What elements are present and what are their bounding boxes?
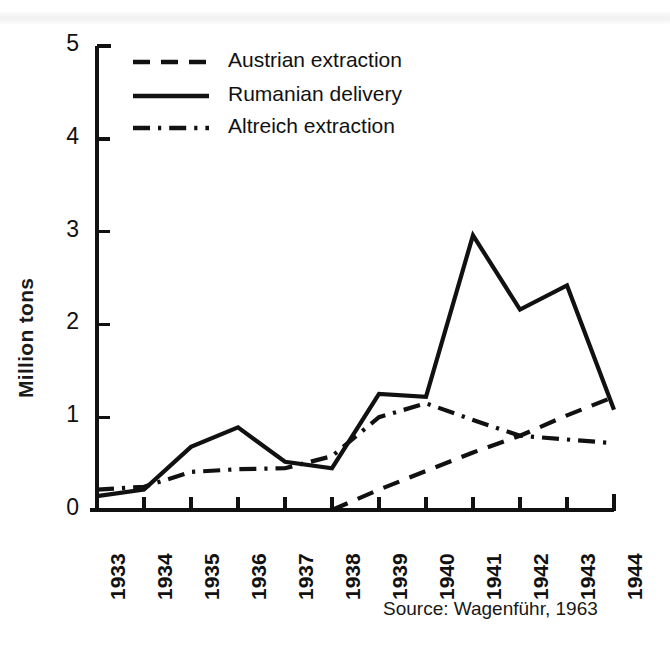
x-tick-label-1936: 1936 (247, 553, 271, 600)
y-tick-label-2: 2 (49, 308, 79, 335)
scan-artifact-band (0, 12, 670, 24)
x-tick-label-1935: 1935 (200, 553, 224, 600)
y-axis-title: Million tons (14, 248, 40, 398)
series-layer (97, 235, 614, 510)
x-tick-label-1942: 1942 (529, 553, 553, 600)
series-line-rumanian-delivery (97, 235, 614, 496)
x-tick-label-1944: 1944 (623, 553, 647, 600)
series-line-altreich-extraction (97, 403, 614, 489)
chart-figure: Million tons 543210 19331934193519361937… (0, 0, 670, 665)
x-tick-label-1938: 1938 (341, 553, 365, 600)
legend-label-altreich-extraction: Altreich extraction (228, 114, 395, 138)
x-tick-label-1943: 1943 (576, 553, 600, 600)
x-tick-label-1934: 1934 (153, 553, 177, 600)
series-line-austrian-extraction (332, 397, 614, 510)
x-tick-label-1933: 1933 (106, 553, 130, 600)
y-tick-label-0: 0 (49, 494, 79, 521)
source-note: Source: Wagenführ, 1963 (383, 598, 598, 620)
x-tick-label-1941: 1941 (482, 553, 506, 600)
legend-label-rumanian-delivery: Rumanian delivery (228, 82, 402, 106)
y-tick-label-1: 1 (49, 401, 79, 428)
x-tick-label-1940: 1940 (435, 553, 459, 600)
y-tick-label-5: 5 (49, 30, 79, 57)
y-tick-label-3: 3 (49, 216, 79, 243)
x-tick-label-1939: 1939 (388, 553, 412, 600)
x-tick-label-1937: 1937 (294, 553, 318, 600)
legend-label-austrian-extraction: Austrian extraction (228, 48, 402, 72)
y-tick-label-4: 4 (49, 123, 79, 150)
